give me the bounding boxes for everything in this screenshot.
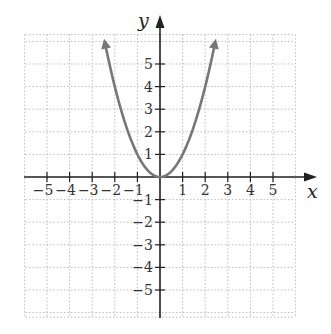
parabola-graph: −5−4−3−2−112345−5−4−3−2−112345 x y bbox=[0, 0, 331, 334]
y-tick-label: 1 bbox=[144, 146, 153, 162]
y-tick-label: −5 bbox=[132, 282, 153, 298]
y-axis-label: y bbox=[137, 9, 149, 31]
x-tick-label: −3 bbox=[78, 182, 99, 198]
curve-arrow-icon bbox=[101, 39, 111, 50]
x-tick-label: −5 bbox=[33, 182, 54, 198]
y-axis-arrow-icon bbox=[156, 15, 165, 28]
y-tick-label: 5 bbox=[144, 56, 153, 72]
y-tick-label: 2 bbox=[144, 124, 153, 140]
y-tick-label: 3 bbox=[144, 101, 153, 117]
curve-arrow-icon bbox=[209, 39, 219, 50]
y-tick-label: −4 bbox=[132, 259, 153, 275]
x-tick-label: −4 bbox=[55, 182, 76, 198]
x-tick-label: 3 bbox=[223, 182, 232, 198]
y-tick-label: −2 bbox=[132, 214, 153, 230]
x-tick-label: 1 bbox=[178, 182, 187, 198]
x-tick-label: 5 bbox=[269, 182, 278, 198]
y-tick-label: 4 bbox=[144, 79, 153, 95]
y-tick-label: −1 bbox=[132, 192, 153, 208]
x-tick-label: 2 bbox=[201, 182, 210, 198]
x-tick-label: 4 bbox=[246, 182, 255, 198]
x-tick-label: −2 bbox=[100, 182, 121, 198]
x-axis-label: x bbox=[307, 180, 318, 202]
y-tick-label: −3 bbox=[132, 237, 153, 253]
